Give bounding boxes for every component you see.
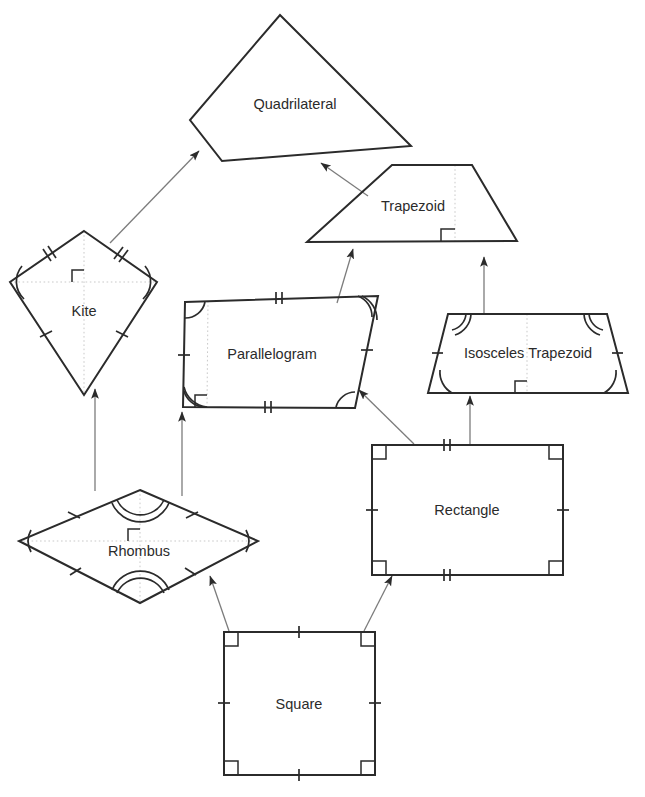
rectangle-label: Rectangle (434, 502, 499, 518)
quadrilateral-label: Quadrilateral (253, 96, 336, 112)
isosceles-trapezoid-right-angle-mark (515, 381, 527, 393)
node-trapezoid[interactable]: Trapezoid (307, 165, 517, 242)
kite-congruence-ticks (40, 246, 128, 337)
quadrilateral-outline (190, 15, 411, 161)
rhombus-right-angle-mark (128, 529, 140, 541)
square-label: Square (276, 696, 323, 712)
node-parallelogram[interactable]: Parallelogram (178, 292, 378, 413)
edge-square-to-rectangle (364, 576, 392, 631)
edge-trapezoid-to-quadrilateral (321, 163, 368, 196)
parallelogram-label: Parallelogram (227, 346, 316, 362)
relationship-arrows (95, 151, 484, 631)
diagram-canvas: Quadrilateral Trapezoid Kite (0, 0, 645, 797)
kite-label: Kite (72, 303, 97, 319)
edge-kite-to-quadrilateral (110, 151, 199, 243)
rhombus-label: Rhombus (108, 543, 170, 559)
parallelogram-height-guide (207, 301, 208, 407)
edge-parallelogram-to-trapezoid (337, 249, 353, 303)
trapezoid-right-angle-mark (441, 229, 455, 241)
node-quadrilateral[interactable]: Quadrilateral (190, 15, 411, 161)
node-rhombus[interactable]: Rhombus (19, 490, 258, 603)
node-square[interactable]: Square (218, 626, 381, 781)
isosceles-trapezoid-label: Isosceles Trapezoid (464, 345, 592, 361)
node-kite[interactable]: Kite (10, 231, 157, 395)
node-isosceles-trapezoid[interactable]: Isosceles Trapezoid (428, 314, 628, 393)
node-rectangle[interactable]: Rectangle (366, 439, 569, 581)
kite-right-angle-mark (72, 270, 84, 282)
edge-rectangle-to-parallelogram (359, 390, 414, 444)
trapezoid-label: Trapezoid (381, 198, 445, 214)
quadrilateral-hierarchy-diagram: Quadrilateral Trapezoid Kite (0, 0, 645, 797)
edge-square-to-rhombus (210, 576, 229, 631)
